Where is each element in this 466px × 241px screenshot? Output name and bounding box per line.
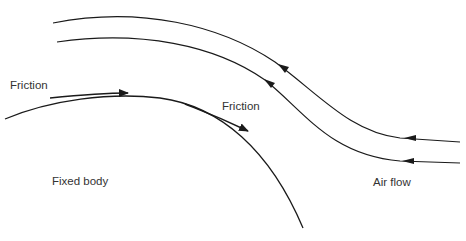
diagram-canvas [0, 0, 466, 241]
friction-label-left: Friction [10, 79, 48, 91]
streamline-upper [53, 17, 460, 142]
arrow-icon [404, 135, 416, 141]
air-flow-label: Air flow [373, 176, 411, 188]
friction-label-right: Friction [222, 100, 260, 112]
fixed-body-label: Fixed body [52, 175, 108, 187]
fixed-body-surface [5, 96, 303, 228]
arrow-icon [402, 158, 414, 164]
